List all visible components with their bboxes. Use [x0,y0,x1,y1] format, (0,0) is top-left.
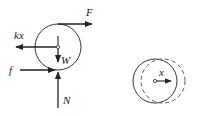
displacement-diagram: x [133,59,185,103]
displacement-origin-point [153,79,156,82]
spring-force-label: kx [14,29,24,41]
friction-label: f [9,64,14,76]
normal-force-label: N [62,94,71,106]
displacement-label: x [158,66,164,78]
diagram-canvas: F kx W f N x [0,0,200,116]
applied-force-label: F [85,6,93,18]
weight-label: W [61,54,71,66]
center-point [56,45,59,48]
free-body-diagram: F kx W f N [9,6,93,108]
